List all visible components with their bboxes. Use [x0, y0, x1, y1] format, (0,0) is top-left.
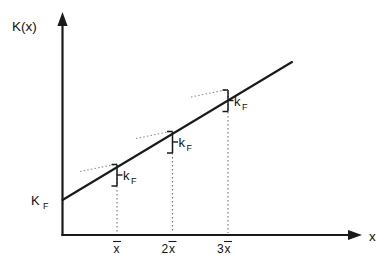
step-bracket-2-label-main: k [179, 135, 186, 150]
y-intercept-label-main: K [31, 193, 40, 208]
kx-diagram: K(x) x K F k F k F [0, 0, 388, 270]
x-tick-label-xbar-main: x [114, 242, 120, 256]
x-tick-label-3xbar: 3 x [217, 242, 232, 257]
x-tick-label-3xbar-main: x [225, 242, 231, 256]
x-tick-label-2xbar-main: x [169, 242, 175, 256]
y-intercept-label-sub: F [43, 201, 49, 211]
step-bracket-3-label-main: k [234, 94, 241, 109]
x-axis-label: x [369, 229, 376, 244]
step-bracket-2-label-sub: F [187, 143, 193, 153]
step-bracket-1-label-main: k [123, 168, 130, 183]
step-bracket-3-label-sub: F [242, 102, 248, 112]
x-tick-label-2xbar: 2 x [162, 242, 177, 257]
figure-canvas: K(x) x K F k F k F [0, 0, 388, 270]
step-bracket-1-label-sub: F [131, 176, 137, 186]
x-tick-label-3xbar-prefix: 3 [217, 242, 224, 256]
x-tick-label-2xbar-prefix: 2 [162, 242, 169, 256]
plot-background [0, 0, 388, 270]
y-axis-label: K(x) [12, 19, 37, 34]
